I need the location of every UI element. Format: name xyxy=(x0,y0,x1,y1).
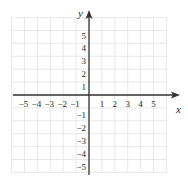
x-axis-label: x xyxy=(175,103,181,115)
y-tick-label: −3 xyxy=(76,136,86,146)
x-tick-label: −4 xyxy=(32,99,42,109)
y-tick-label: 4 xyxy=(82,43,87,53)
x-tick-label: 3 xyxy=(125,99,130,109)
y-tick-label: −2 xyxy=(76,123,86,133)
y-tick-label: 1 xyxy=(82,82,87,92)
y-tick-label: 5 xyxy=(82,31,87,41)
x-tick-label: −5 xyxy=(19,99,29,109)
y-axis-label: y xyxy=(77,7,83,19)
axes xyxy=(13,10,180,175)
x-tick-label: 4 xyxy=(138,99,143,109)
y-tick-label: 2 xyxy=(82,69,87,79)
x-tick-label: −1 xyxy=(70,99,80,109)
x-tick-label: −2 xyxy=(57,99,67,109)
x-tick-label: −3 xyxy=(45,99,55,109)
x-tick-label: 5 xyxy=(151,99,156,109)
y-tick-label: −4 xyxy=(76,149,86,159)
x-tick-label: 2 xyxy=(113,99,118,109)
y-tick-label: 3 xyxy=(82,56,87,66)
y-tick-label: −5 xyxy=(76,162,86,172)
coordinate-plane: x y −5−4−3−2−112345 54321−1−2−3−4−5 xyxy=(0,0,188,194)
y-tick-label: −1 xyxy=(76,110,86,120)
x-tick-label: 1 xyxy=(100,99,105,109)
